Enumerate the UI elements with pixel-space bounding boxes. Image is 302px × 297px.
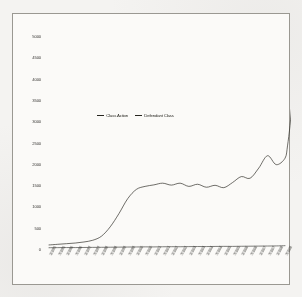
legend-entry-class-action: Class Action — [97, 113, 128, 118]
y-tick-label: 3000 — [17, 119, 41, 124]
y-tick-label: 5000 — [17, 34, 41, 39]
legend-label: Defendant Class — [144, 113, 174, 118]
legend-entry-defendant-class: Defendant Class — [135, 113, 174, 118]
legend-line-swatch — [97, 115, 104, 116]
series-layer — [49, 52, 291, 248]
y-tick-label: 4000 — [17, 76, 41, 81]
legend-label: Class Action — [106, 113, 128, 118]
y-tick-label: 3500 — [17, 97, 41, 102]
y-tick-label: 1500 — [17, 183, 41, 188]
chart-legend: Class Action Defendant Class — [97, 113, 174, 118]
y-tick-label: 4500 — [17, 55, 41, 60]
y-tick-label: 500 — [17, 225, 41, 230]
y-tick-label: 1000 — [17, 204, 41, 209]
y-tick-label: 2500 — [17, 140, 41, 145]
y-tick-label: 2000 — [17, 161, 41, 166]
chart-figure: 0500100015002000250030003500400045005000… — [12, 13, 290, 285]
y-tick-label: 0 — [17, 247, 41, 252]
legend-line-swatch — [135, 115, 142, 116]
series-line-class-action — [49, 52, 291, 245]
